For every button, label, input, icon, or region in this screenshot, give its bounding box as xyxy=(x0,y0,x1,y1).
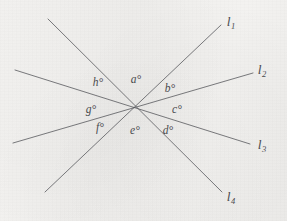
line-label-subscript: 1 xyxy=(231,21,235,31)
line-label-l4: l4 xyxy=(227,190,236,205)
line-label-l3: l3 xyxy=(258,138,267,153)
line-label-subscript: 3 xyxy=(262,144,266,154)
angle-label-e: e° xyxy=(130,125,140,137)
angle-label-f: f° xyxy=(96,122,104,134)
angle-label-d: d° xyxy=(163,125,174,137)
line-label-subscript: 2 xyxy=(262,69,266,79)
angle-label-h: h° xyxy=(93,77,104,89)
angle-label-c: c° xyxy=(172,104,182,116)
geometry-diagram: a°b°c°d°e°f°g°h° l1l2l3l4 xyxy=(0,0,287,221)
angle-label-g: g° xyxy=(86,104,97,116)
line-label-l1: l1 xyxy=(227,15,236,30)
angle-label-b: b° xyxy=(165,83,176,95)
angle-label-a: a° xyxy=(131,74,142,86)
line-label-l2: l2 xyxy=(258,63,267,78)
lines-layer xyxy=(0,0,287,221)
line-l1 xyxy=(45,25,221,192)
line-l4 xyxy=(48,19,222,192)
line-label-subscript: 4 xyxy=(231,196,235,206)
